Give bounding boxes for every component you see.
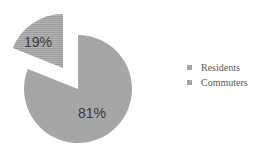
legend-item-residents[interactable]: Residents (187, 60, 248, 75)
legend: Residents Commuters (187, 60, 248, 90)
legend-swatch-residents (187, 65, 192, 70)
legend-item-commuters[interactable]: Commuters (187, 75, 248, 90)
label-residents: 81% (78, 105, 106, 121)
legend-label-residents: Residents (201, 62, 240, 73)
legend-swatch-commuters (187, 80, 192, 85)
legend-label-commuters: Commuters (201, 77, 248, 88)
label-commuters: 19% (24, 34, 52, 50)
